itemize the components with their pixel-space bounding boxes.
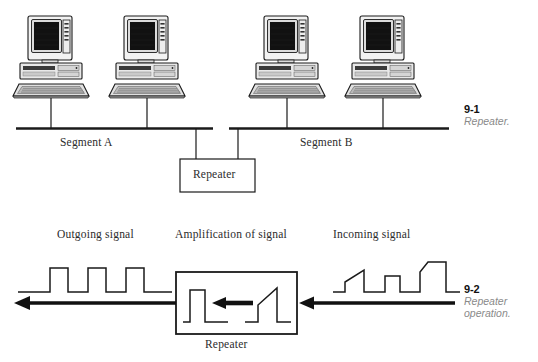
workstation-b2 <box>345 16 421 98</box>
incoming-signal-label: Incoming signal <box>333 228 410 240</box>
bottom-diagram-group <box>14 262 460 334</box>
incoming-waveform <box>333 262 460 292</box>
signal-arrow-left-segment <box>14 296 176 310</box>
workstation-b1 <box>249 16 325 98</box>
outgoing-signal-label: Outgoing signal <box>57 228 134 240</box>
figure-9-2-caption-line2: operation. <box>464 307 511 319</box>
workstation-a2 <box>109 16 185 98</box>
repeater-box-top-label: Repeater <box>193 168 235 180</box>
figure-9-2-number: 9-2 <box>464 283 479 295</box>
figure-root: Segment A Segment B Repeater Outgoing si… <box>0 0 538 362</box>
figure-9-2-caption-line1: Repeater <box>464 295 507 307</box>
repeater-drop-lines <box>196 128 238 159</box>
outgoing-waveform <box>18 268 172 292</box>
figure-9-1-caption: Repeater. <box>464 115 510 127</box>
segment-a-label: Segment A <box>60 136 113 148</box>
segment-b-label: Segment B <box>300 136 353 148</box>
figure-9-1-number: 9-1 <box>464 103 479 115</box>
diagram-canvas <box>0 0 538 362</box>
top-diagram-group <box>13 16 449 192</box>
amplification-label: Amplification of signal <box>175 228 287 240</box>
workstation-drop-lines <box>51 98 383 128</box>
repeater-box-bottom-label: Repeater <box>205 338 247 350</box>
signal-arrow-right-segment <box>299 297 455 310</box>
workstation-a1 <box>13 16 89 98</box>
